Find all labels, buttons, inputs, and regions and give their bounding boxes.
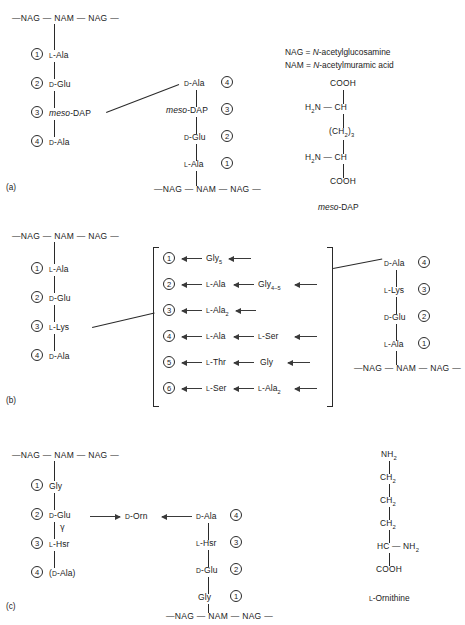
- panel-b-backbone-bottom: —NAG — NAM — NAG —: [354, 363, 461, 373]
- bridge-arrow: [182, 310, 202, 311]
- bridge-arrow: [182, 388, 202, 389]
- residue-number-4: 4: [418, 256, 430, 268]
- bridge-arrow: [182, 284, 202, 285]
- dash: —: [74, 231, 88, 241]
- panel-b-bond: [54, 276, 55, 293]
- bridge-residue-gly4-5: Gly4–5: [258, 279, 281, 290]
- dash: —: [40, 231, 54, 241]
- panel-b-bond: [54, 334, 55, 351]
- bridge-arrow: [229, 258, 251, 259]
- dash: —: [166, 611, 175, 621]
- residue-number-4: 4: [31, 135, 43, 147]
- bridge-number-2: 2: [163, 278, 175, 290]
- bridge-number-3: 3: [163, 304, 175, 316]
- bridge-arrow: [234, 336, 254, 337]
- dash: —: [354, 363, 363, 373]
- sugar-nag: NAG: [21, 231, 40, 241]
- panel-a-label: (a): [6, 183, 16, 192]
- residue-l-hsr: L-Hsr: [49, 539, 69, 550]
- panel-a-bond: [54, 62, 55, 79]
- residue-number-4: 4: [221, 76, 233, 88]
- bridge-residue-l-ser: L-Ser: [206, 383, 226, 394]
- panel-b-stem-top: [54, 242, 55, 264]
- bridge-arrow: [236, 310, 256, 311]
- panel-b-crosslink-right: [333, 258, 382, 269]
- dap-caption: meso-DAP: [318, 202, 359, 212]
- sugar-nag: NAG: [175, 611, 194, 621]
- residue-d-glu: D-Glu: [184, 132, 206, 143]
- residue-d-ala: D-Ala: [196, 511, 217, 522]
- sugar-nag: NAG: [21, 13, 40, 23]
- residue-number-2: 2: [230, 563, 242, 575]
- residue-number-3: 3: [31, 106, 43, 118]
- sugar-nam: NAM: [196, 184, 216, 194]
- dash: —: [262, 611, 273, 621]
- bridge-arrow: [182, 336, 202, 337]
- residue-number-3: 3: [31, 320, 43, 332]
- residue-d-glu: D-Glu: [49, 293, 71, 304]
- bridge-residue-l-ala2: L-Ala2: [206, 305, 229, 316]
- residue-number-1: 1: [221, 157, 233, 169]
- sugar-nam: NAM: [54, 231, 74, 241]
- sugar-nag: NAG: [430, 363, 449, 373]
- dash: —: [40, 450, 54, 460]
- dash: —: [12, 231, 21, 241]
- bridge-arrow: [182, 258, 202, 259]
- residue-number-1: 1: [31, 48, 43, 60]
- panel-c-stem-top: [54, 461, 55, 481]
- dash: —: [228, 611, 242, 621]
- bridge-arrow-left: [90, 516, 120, 517]
- residue-number-2: 2: [221, 130, 233, 142]
- residue-l-ala: L-Ala: [184, 159, 204, 170]
- gamma-label: γ: [60, 523, 65, 532]
- residue-number-1: 1: [418, 337, 430, 349]
- residue-number-2: 2: [31, 291, 43, 303]
- dash: —: [182, 184, 196, 194]
- bridge-arrow: [295, 336, 317, 337]
- orn-atom-hc-nh2: HC — NH2: [377, 541, 419, 551]
- dash: —: [450, 363, 461, 373]
- residue-number-2: 2: [418, 310, 430, 322]
- residue-number-4: 4: [230, 509, 242, 521]
- residue-d-glu: D-Glu: [384, 312, 406, 323]
- residue-number-2: 2: [31, 77, 43, 89]
- bridge-number-1: 1: [163, 252, 175, 264]
- panel-a-backbone-top: —NAG — NAM — NAG —: [12, 13, 119, 23]
- panel-a-backbone-bottom: —NAG — NAM — NAG —: [154, 184, 261, 194]
- panel-b-backbone-top: —NAG — NAM — NAG —: [12, 231, 119, 241]
- residue-d-ala: D-Ala: [49, 137, 70, 148]
- sugar-nag: NAG: [230, 184, 249, 194]
- sugar-nam: NAM: [208, 611, 228, 621]
- dash: —: [108, 450, 119, 460]
- dash: —: [74, 450, 88, 460]
- bridge-arrow: [234, 388, 254, 389]
- bridge-arrow: [288, 362, 310, 363]
- residue-d-ala-optional: (D-Ala): [49, 568, 76, 579]
- bridge-residue-l-ser: L-Ser: [258, 331, 278, 342]
- bridge-number-5: 5: [163, 356, 175, 368]
- panel-a-stem-top: [54, 24, 55, 50]
- residue-d-ala: D-Ala: [384, 258, 405, 269]
- dash: —: [416, 363, 430, 373]
- bridge-arrow: [295, 284, 317, 285]
- bridge-residue-gly: Gly: [260, 357, 273, 368]
- residue-l-lys: L-Lys: [384, 285, 404, 296]
- panel-a-bond: [54, 91, 55, 108]
- residue-gly: Gly: [49, 481, 62, 492]
- dash: —: [12, 13, 21, 23]
- dap-atom-cooh-top: COOH: [330, 78, 356, 88]
- panel-c-bond: [54, 493, 55, 510]
- bracket-right: [327, 247, 333, 407]
- orn-atom-nh2-top: NH2: [381, 449, 397, 459]
- sugar-nam: NAM: [54, 450, 74, 460]
- dap-atom-h2n-ch-lower: H2N — CH: [305, 152, 347, 162]
- dash: —: [74, 13, 88, 23]
- bracket-left: [153, 247, 159, 407]
- dash: —: [12, 450, 21, 460]
- orn-atom-ch2-1: CH2: [380, 472, 396, 482]
- residue-l-hsr: L-Hsr: [196, 538, 216, 549]
- ornithine-caption: L-Ornithine: [369, 593, 410, 603]
- residue-d-glu: D-Glu: [49, 79, 71, 90]
- sugar-nag: NAG: [88, 13, 107, 23]
- residue-number-3: 3: [221, 103, 233, 115]
